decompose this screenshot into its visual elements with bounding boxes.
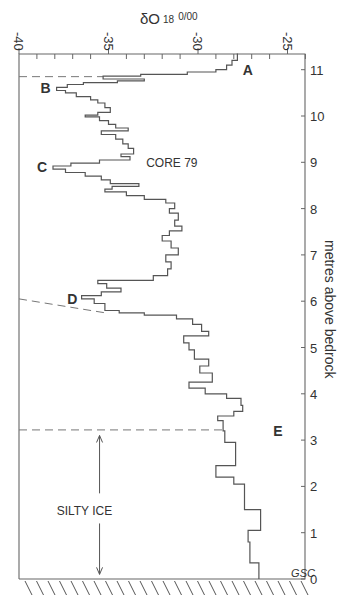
annotation-gsc: GSC [291, 567, 315, 579]
y-tick-label: 3 [310, 433, 317, 448]
annotation-silty-ice: SILTY ICE [57, 504, 113, 518]
x-axis-title: δO180/00 [140, 10, 198, 27]
isotope-trace-line [53, 54, 261, 580]
annotation-e: E [273, 423, 282, 439]
y-tick-label: 8 [310, 202, 317, 217]
y-tick-label: 4 [310, 387, 317, 402]
dashed-boundary-lines [19, 77, 223, 430]
x-tick-label: -30 [190, 32, 205, 51]
y-axis-title: metres above bedrock [322, 240, 338, 380]
x-tick-label: -35 [101, 32, 116, 51]
bedrock-hatching [25, 581, 308, 595]
y-tick-label: 9 [310, 155, 317, 170]
plot-frame [19, 54, 305, 579]
annotation-core-79: CORE 79 [146, 156, 198, 170]
annotation-b: B [40, 80, 50, 96]
y-tick-label: 6 [310, 294, 317, 309]
x-tick-label: -40 [11, 32, 26, 51]
isotope-profile-chart: -40-35-30-25 01234567891011 ABCDECORE 79… [0, 0, 350, 614]
dashed-line [19, 299, 105, 313]
annotation-d: D [67, 291, 77, 307]
annotation-a: A [243, 62, 253, 78]
y-tick-label: 5 [310, 341, 317, 356]
x-axis-ticks: -40-35-30-25 [11, 32, 305, 59]
x-tick-label: -25 [280, 32, 295, 51]
chart-annotations: ABCDECORE 79SILTY ICEGSC [37, 62, 315, 579]
y-tick-label: 1 [310, 526, 317, 541]
y-tick-label: 2 [310, 479, 317, 494]
y-tick-label: 11 [310, 63, 324, 78]
y-tick-label: 7 [310, 248, 317, 263]
y-tick-label: 10 [310, 109, 324, 124]
annotation-c: C [37, 159, 47, 175]
